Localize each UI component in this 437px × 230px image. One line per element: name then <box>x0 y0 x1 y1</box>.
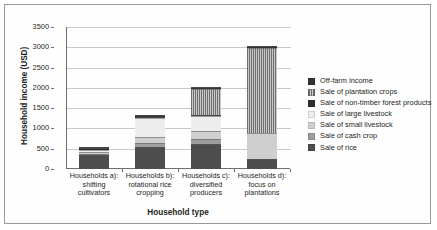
y-axis-tick <box>51 108 54 109</box>
bar-segment[interactable] <box>191 89 221 115</box>
bar-segment[interactable] <box>135 115 165 116</box>
legend-item[interactable]: Sale of cash crop <box>308 132 431 140</box>
y-axis-tick-label: 1000 <box>33 124 49 132</box>
bar-segment[interactable] <box>135 118 165 137</box>
x-axis-title: Household type <box>66 208 290 217</box>
y-axis-tick-label: 2500 <box>33 64 49 72</box>
legend-label: Sale of non-timber forest products <box>320 99 431 107</box>
bar-segment[interactable] <box>191 131 221 139</box>
y-axis-tick-label: 500 <box>37 145 49 153</box>
y-axis-tick <box>51 47 54 48</box>
y-axis-tick-label: 0 <box>45 165 49 173</box>
y-axis-tick <box>51 128 54 129</box>
bar-segment[interactable] <box>191 115 221 116</box>
bar-segment[interactable] <box>135 147 165 169</box>
y-axis-tick <box>51 149 54 150</box>
bar-segment[interactable] <box>79 154 109 156</box>
bar-segment[interactable] <box>135 137 165 142</box>
y-axis-tick-label: 3500 <box>33 23 49 31</box>
legend-label: Sale of plantation crops <box>320 88 397 96</box>
bar-segment[interactable] <box>79 150 109 152</box>
stacked-bar[interactable] <box>135 27 165 169</box>
legend-label: Sale of small livestock <box>320 121 393 129</box>
legend-swatch <box>308 111 315 118</box>
legend-swatch <box>308 122 315 129</box>
legend-label: Off-farm income <box>320 77 373 85</box>
chart-legend: Off-farm incomeSale of plantation cropsS… <box>308 77 431 155</box>
stacked-bar[interactable] <box>79 27 109 169</box>
bar-segment[interactable] <box>135 143 165 147</box>
stacked-bar[interactable] <box>247 27 277 169</box>
bar-segment[interactable] <box>247 48 277 134</box>
bar-segment[interactable] <box>247 133 277 159</box>
y-axis-tick-label: 2000 <box>33 84 49 92</box>
bar-segment[interactable] <box>79 147 109 149</box>
legend-swatch <box>308 100 315 107</box>
bar-segment[interactable] <box>247 159 277 169</box>
bar-segment[interactable] <box>191 87 221 88</box>
y-axis-tick <box>51 27 54 28</box>
x-axis-label-line: plantations <box>226 189 298 198</box>
x-axis-tick-label: Households d):focus onplantations <box>226 172 298 198</box>
legend-label: Sale of large livestock <box>320 110 392 118</box>
legend-swatch <box>308 144 315 151</box>
bar-segment[interactable] <box>79 148 109 149</box>
legend-item[interactable]: Sale of non-timber forest products <box>308 99 431 107</box>
legend-label: Sale of rice <box>320 144 357 152</box>
chart-frame: Household income (USD) 35003000250020001… <box>4 4 431 224</box>
y-axis-tick <box>51 88 54 89</box>
bar-segment[interactable] <box>191 116 221 131</box>
y-axis-tick <box>51 68 54 69</box>
bar-segment[interactable] <box>191 144 221 169</box>
bar-segment[interactable] <box>79 155 109 169</box>
legend-swatch <box>308 89 315 96</box>
bar-segment[interactable] <box>247 46 277 48</box>
legend-item[interactable]: Sale of plantation crops <box>308 88 431 96</box>
legend-swatch <box>308 78 315 85</box>
y-axis-tick <box>51 169 54 170</box>
bar-segment[interactable] <box>191 139 221 144</box>
bar-segment[interactable] <box>79 152 109 154</box>
y-axis-tick-label: 3000 <box>33 43 49 51</box>
y-axis-tick-label: 1500 <box>33 104 49 112</box>
legend-item[interactable]: Sale of small livestock <box>308 121 431 129</box>
legend-label: Sale of cash crop <box>320 132 377 140</box>
legend-swatch <box>308 133 315 140</box>
legend-item[interactable]: Sale of rice <box>308 144 431 152</box>
stacked-bar[interactable] <box>191 27 221 169</box>
legend-item[interactable]: Off-farm income <box>308 77 431 85</box>
legend-item[interactable]: Sale of large livestock <box>308 110 431 118</box>
y-axis-title: Household income (USD) <box>20 47 29 145</box>
